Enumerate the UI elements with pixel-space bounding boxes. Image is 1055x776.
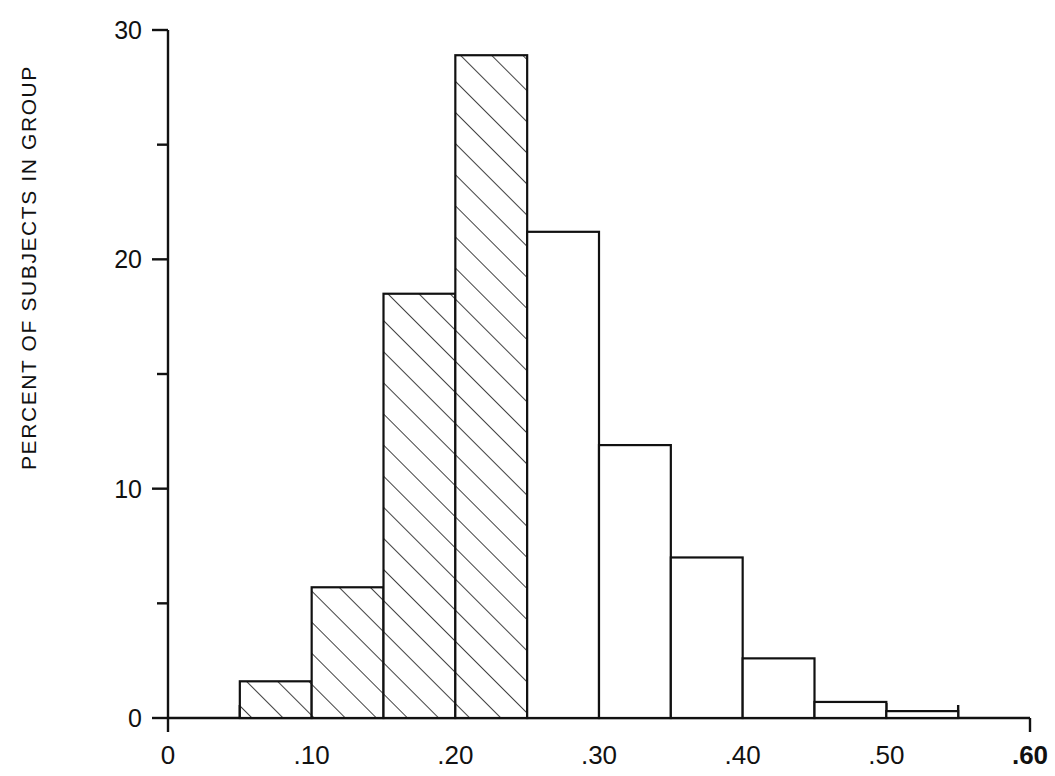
histogram-bar-open <box>743 658 815 718</box>
y-axis-title: PERCENT OF SUBJECTS IN GROUP <box>17 65 40 470</box>
histogram-chart: 0102030 0.10.20.30.40.50.60 PERCENT OF S… <box>0 0 1055 776</box>
y-axis-tick-label: 10 <box>114 475 142 503</box>
histogram-bar <box>312 587 384 718</box>
histogram-bar-open <box>599 445 671 718</box>
x-axis-tick-label: .40 <box>725 740 761 770</box>
chart-canvas: 0102030 0.10.20.30.40.50.60 PERCENT OF S… <box>0 0 1055 776</box>
x-axis-tick-label: .30 <box>581 740 617 770</box>
histogram-bar <box>527 232 599 718</box>
histogram-bar-hatched <box>240 681 312 718</box>
histogram-bar-hatched <box>312 587 384 718</box>
histogram-bar <box>743 658 815 718</box>
histogram-bar <box>384 294 456 718</box>
histogram-bar <box>455 55 527 718</box>
histogram-bar <box>886 711 958 718</box>
x-axis-tick-label: .50 <box>868 740 904 770</box>
histogram-bar <box>671 557 743 718</box>
histogram-bar-open <box>527 232 599 718</box>
y-axis-title-text: PERCENT OF SUBJECTS IN GROUP <box>17 65 40 470</box>
histogram-bar-open <box>815 702 887 718</box>
histogram-bar <box>599 445 671 718</box>
histogram-bar-hatched <box>384 294 456 718</box>
histogram-bar-open <box>671 557 743 718</box>
histogram-bar-open <box>886 711 958 718</box>
x-axis-tick-label: .60 <box>1012 740 1048 770</box>
y-axis-tick-label: 20 <box>114 245 142 273</box>
x-axis-tick-label: .20 <box>437 740 473 770</box>
x-axis-tick-label: .10 <box>294 740 330 770</box>
y-axis-tick-label: 30 <box>114 16 142 44</box>
x-axis-tick-label: 0 <box>161 740 175 770</box>
histogram-bar <box>240 681 312 718</box>
y-axis-tick-label: 0 <box>128 704 142 732</box>
histogram-bar <box>815 702 887 718</box>
histogram-bar-hatched <box>455 55 527 718</box>
